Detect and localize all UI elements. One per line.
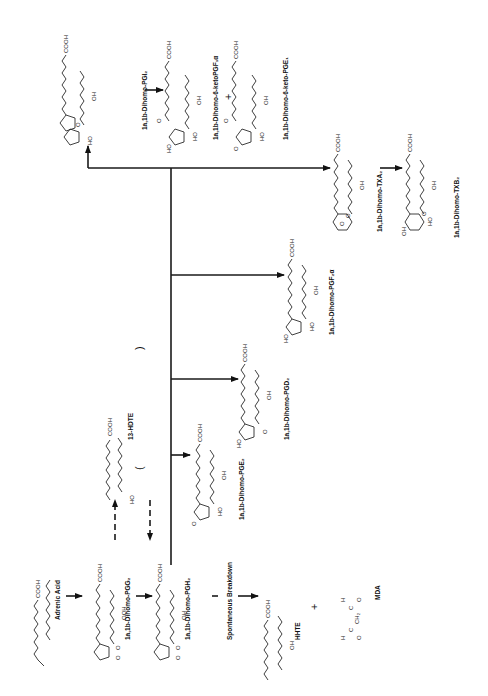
label-pgg2: 1a,1b-Dihomo-PGG₂ bbox=[124, 577, 132, 640]
svg-text:O: O bbox=[345, 213, 351, 218]
structure-adrenic-acid: COOH bbox=[34, 580, 50, 666]
svg-text:COOH: COOH bbox=[166, 41, 172, 59]
structure-mda: H C O CH₂ C H O bbox=[340, 597, 362, 640]
svg-text:OH: OH bbox=[266, 391, 272, 400]
structure-pgg2: O O OOH COOH bbox=[94, 564, 127, 660]
svg-text:COOH: COOH bbox=[407, 134, 413, 152]
label-6-keto-pge1: 1a,1b-Dihomo-6-keto-PGE₁ bbox=[282, 57, 290, 140]
svg-text:C: C bbox=[348, 627, 354, 632]
svg-text:H: H bbox=[340, 598, 346, 602]
svg-text:HO: HO bbox=[217, 507, 223, 516]
svg-text:O: O bbox=[175, 655, 181, 660]
label-pgi2: 1a,1b-Dihomo-PGI₂ bbox=[141, 71, 149, 130]
svg-text:O: O bbox=[356, 597, 362, 602]
svg-text:HO: HO bbox=[129, 495, 135, 504]
structure-pgh2: O O OH COOH bbox=[154, 564, 187, 660]
svg-text:HO: HO bbox=[192, 132, 198, 141]
svg-text:HO: HO bbox=[283, 334, 289, 343]
svg-text:OH: OH bbox=[221, 471, 227, 480]
label-spontaneous-breakdown: Spontaneous Breakdown bbox=[226, 562, 234, 640]
paren-close: ) bbox=[133, 346, 145, 350]
label-6-keto-pgf1a: 1a,1b-Dihomo-6-ketoPGF₁α bbox=[212, 56, 220, 140]
structure-txa2: O O OH COOH bbox=[333, 134, 365, 230]
svg-text:OH: OH bbox=[289, 641, 295, 650]
svg-text:O: O bbox=[339, 221, 345, 226]
svg-text:OH: OH bbox=[263, 96, 269, 105]
structure-txb2: OH HO O OH COOH bbox=[401, 134, 437, 236]
svg-text:O: O bbox=[115, 645, 121, 650]
svg-text:HO: HO bbox=[87, 136, 93, 145]
svg-text:OH: OH bbox=[359, 181, 365, 190]
label-pgd2: 1a,1b-Dihomo-PGD₂ bbox=[283, 378, 291, 440]
structure-pgi2: O HO OH COOH bbox=[60, 35, 97, 145]
svg-text:O: O bbox=[75, 122, 81, 127]
structure-pgd2: HO O OH COOH bbox=[236, 344, 272, 448]
label-hhte: HHTE bbox=[294, 622, 301, 640]
label-pge2: 1a,1b-Dihomo-PGE₂ bbox=[238, 458, 246, 520]
svg-text:COOH: COOH bbox=[242, 344, 248, 362]
structure-pge2: O HO OH COOH bbox=[191, 424, 227, 526]
svg-text:HO: HO bbox=[166, 144, 172, 153]
svg-text:O: O bbox=[156, 118, 162, 123]
svg-text:COOH: COOH bbox=[63, 35, 69, 53]
svg-text:COOH: COOH bbox=[107, 418, 113, 436]
svg-text:C: C bbox=[348, 605, 354, 610]
svg-text:COOH: COOH bbox=[265, 600, 271, 618]
svg-text:OH: OH bbox=[91, 92, 97, 101]
label-adrenic-acid: Adrenic Acid bbox=[54, 580, 61, 620]
plus-sign-mda: + bbox=[308, 604, 320, 610]
svg-text:O: O bbox=[175, 645, 181, 650]
svg-text:OH: OH bbox=[401, 227, 407, 236]
label-mda: MDA bbox=[374, 585, 381, 600]
svg-text:O: O bbox=[233, 146, 239, 151]
svg-text:O: O bbox=[115, 655, 121, 660]
svg-text:HO: HO bbox=[259, 132, 265, 141]
svg-text:H: H bbox=[340, 636, 346, 640]
structure-6-keto-pgf1a: HO HO O OH COOH bbox=[156, 41, 202, 153]
cooh-group: COOH bbox=[35, 580, 41, 598]
label-pgh2: 1a,1b-Dihomo-PGH₂ bbox=[184, 578, 192, 640]
label-pgf2a: 1a,1b-Dihomo-PGF₂α bbox=[328, 270, 336, 335]
svg-text:COOH: COOH bbox=[289, 239, 295, 257]
structure-hhte: COOH OH bbox=[264, 600, 295, 680]
plus-sign-keto: + bbox=[222, 94, 234, 100]
paren-open: ( bbox=[133, 466, 145, 470]
svg-text:O: O bbox=[191, 521, 197, 526]
pathway-diagram: COOH O O OOH COOH O O OH COOH COOH HO ( … bbox=[0, 0, 488, 696]
svg-text:COOH: COOH bbox=[197, 424, 203, 442]
svg-text:OH: OH bbox=[431, 181, 437, 190]
svg-text:O: O bbox=[356, 635, 362, 640]
svg-text:HO: HO bbox=[427, 217, 433, 226]
svg-text:OH: OH bbox=[313, 286, 319, 295]
svg-text:HO: HO bbox=[309, 322, 315, 331]
svg-text:COOH: COOH bbox=[335, 134, 341, 152]
label-txa2: 1a,1b-Dihomo-TXA₂ bbox=[376, 171, 384, 232]
label-13-hdte: 13-HDTE bbox=[127, 412, 134, 440]
svg-text:COOH: COOH bbox=[97, 564, 103, 582]
svg-text:O: O bbox=[223, 118, 229, 123]
svg-text:HO: HO bbox=[236, 439, 242, 448]
svg-text:OH: OH bbox=[196, 96, 202, 105]
svg-text:COOH: COOH bbox=[233, 41, 239, 59]
svg-text:CH₂: CH₂ bbox=[354, 612, 360, 624]
label-txb2: 1a,1b-Dihomo-TXB₂ bbox=[453, 177, 461, 238]
svg-text:O: O bbox=[421, 211, 427, 216]
svg-text:COOH: COOH bbox=[157, 564, 163, 582]
structure-pgf2a: HO HO OH COOH bbox=[283, 239, 319, 343]
svg-text:O: O bbox=[262, 429, 268, 434]
